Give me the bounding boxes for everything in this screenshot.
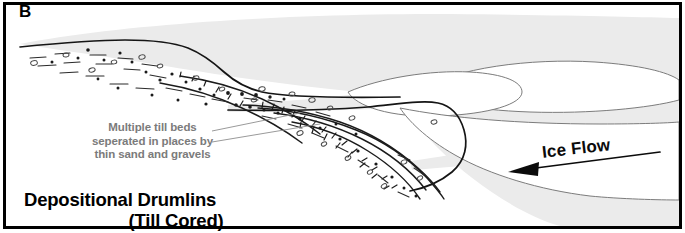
figure-title: Depositional Drumlins (Till Cored) [24,189,324,231]
till-beds-annotation: Multiple till beds seperated in places b… [60,121,245,162]
annotation-line-1: Multiple till beds [60,121,245,135]
drumlin-bodies [348,61,679,200]
figure-title-line-1: Depositional Drumlins [24,189,324,210]
annotation-line-2: seperated in places by [60,135,245,149]
annotation-line-3: thin sand and gravels [60,148,245,162]
panel-letter-b: B [19,3,31,20]
figure-panel-b: B Multiple till beds seperated in places… [0,0,685,233]
figure-title-line-2: (Till Cored) [24,210,324,231]
